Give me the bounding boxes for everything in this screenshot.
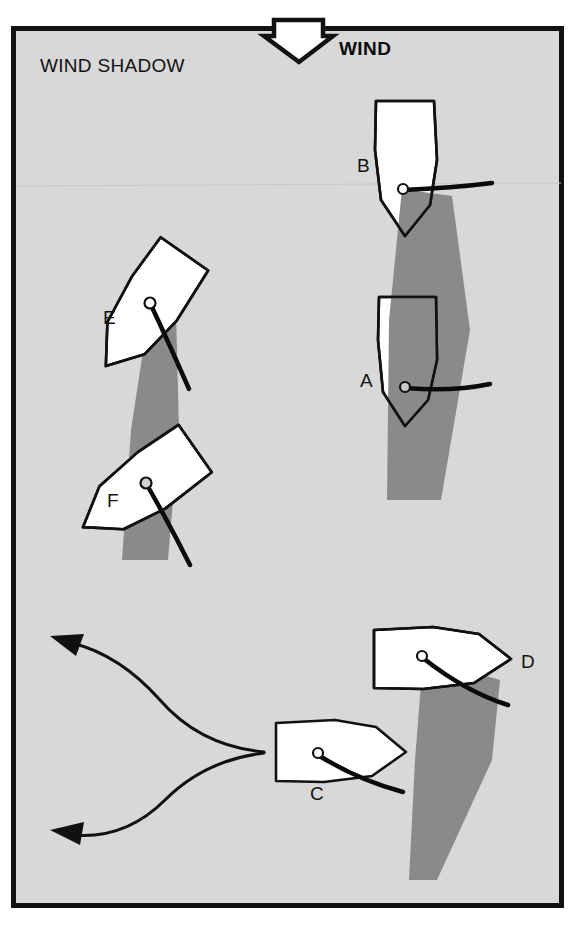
boat-mast-B (398, 184, 408, 194)
boat-label-B: B (357, 155, 370, 176)
boat-mast-C (313, 748, 323, 758)
diagram-canvas: WIND WIND SHADOW B (0, 0, 577, 925)
boat-label-D: D (521, 651, 535, 672)
boat-mast-E (145, 298, 156, 309)
boat-label-E: E (103, 307, 116, 328)
boat-mast-A (400, 382, 410, 392)
boat-label-A: A (360, 370, 373, 391)
panel-label-wind-shadow: WIND SHADOW (40, 55, 185, 76)
wind-shadow-diagram: WIND WIND SHADOW B (0, 0, 577, 925)
wind-label: WIND (339, 38, 391, 59)
boat-mast-F (141, 478, 152, 489)
boat-mast-D (417, 651, 427, 661)
boat-label-F: F (107, 490, 119, 511)
boat-label-C: C (310, 783, 324, 804)
